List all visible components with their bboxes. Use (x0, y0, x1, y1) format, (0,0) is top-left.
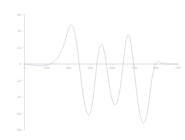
x-tick-label: 400 (109, 66, 115, 70)
y-tick-label: 20 (17, 46, 21, 50)
line-chart: -80-60-40-200204060 01002003004005006007… (0, 0, 185, 140)
y-tick-label: -20 (16, 79, 21, 83)
y-tick-label: 60 (17, 13, 21, 17)
y-tick-label: 0 (19, 62, 21, 66)
series-line-signal (25, 25, 179, 123)
x-tick-label: 100 (43, 66, 49, 70)
x-tick-label: 300 (87, 66, 93, 70)
x-tick-label: 200 (65, 66, 71, 70)
y-tick-label: -80 (16, 128, 21, 132)
y-tick-label: -60 (16, 112, 21, 116)
chart-container: -80-60-40-200204060 01002003004005006007… (0, 0, 185, 140)
y-tick-label: -40 (16, 95, 21, 99)
y-axis-tick-group: -80-60-40-200204060 (16, 13, 24, 132)
y-tick-label: 40 (17, 29, 21, 33)
x-tick-label: 700 (175, 66, 181, 70)
